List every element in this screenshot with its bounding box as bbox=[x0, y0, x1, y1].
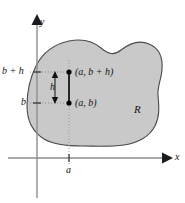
lower-point-dot bbox=[66, 100, 71, 105]
region-shape bbox=[27, 40, 162, 146]
y-axis-label: y bbox=[40, 17, 44, 27]
upper-point-label: (a, b + h) bbox=[75, 67, 113, 77]
x-axis-arrowhead bbox=[162, 153, 173, 164]
y-tick-label-b: b bbox=[21, 97, 26, 107]
figure-canvas: y x b + h b a (a, b + h) (a, b) h R bbox=[0, 0, 185, 203]
y-tick-label-b-plus-h: b + h bbox=[2, 66, 24, 76]
x-tick-label-a: a bbox=[66, 165, 71, 175]
upper-point-dot bbox=[66, 69, 71, 74]
x-axis-label: x bbox=[175, 152, 179, 162]
region-label: R bbox=[134, 104, 141, 115]
lower-point-label: (a, b) bbox=[75, 98, 97, 108]
h-measure-label: h bbox=[50, 82, 55, 92]
